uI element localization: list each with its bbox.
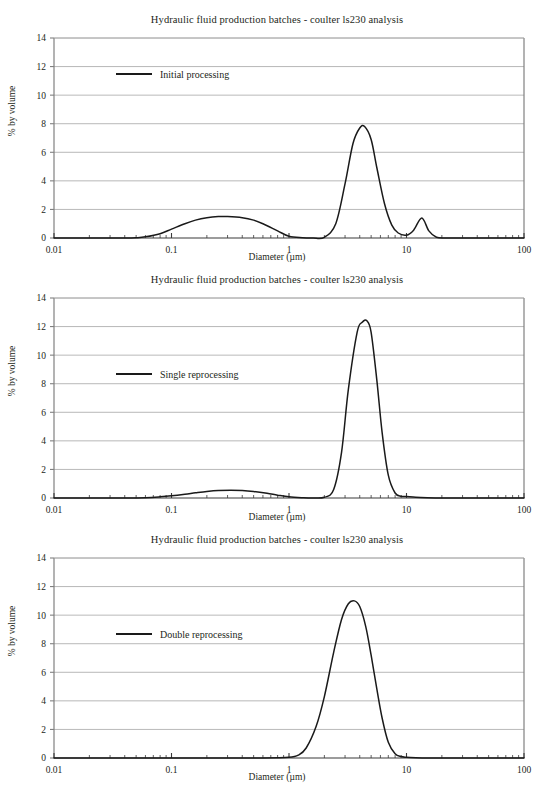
y-tick-label: 2	[41, 465, 46, 475]
chart-title: Hydraulic fluid production batches - cou…	[0, 274, 554, 285]
figure-root: Hydraulic fluid production batches - cou…	[0, 0, 554, 807]
y-tick-label: 2	[41, 205, 46, 215]
y-tick-label: 14	[37, 293, 47, 303]
legend-label: Double reprocessing	[160, 629, 242, 640]
x-tick-label: 0.1	[166, 765, 178, 775]
y-tick-label: 4	[41, 436, 46, 446]
y-tick-label: 0	[41, 753, 46, 763]
y-tick-label: 0	[41, 493, 46, 503]
y-tick-label: 14	[37, 33, 47, 43]
legend-label: Single reprocessing	[160, 369, 239, 380]
x-tick-label: 10	[402, 765, 412, 775]
x-tick-label: 10	[402, 245, 412, 255]
plot-area: 024681012140.010.1110100Single reprocess…	[0, 290, 554, 520]
y-tick-label: 12	[37, 582, 47, 592]
y-tick-label: 6	[41, 148, 46, 158]
y-tick-label: 10	[37, 611, 47, 621]
y-tick-label: 10	[37, 91, 47, 101]
chart-title: Hydraulic fluid production batches - cou…	[0, 534, 554, 545]
chart-panel-double-reprocessing: Hydraulic fluid production batches - cou…	[0, 534, 554, 796]
y-tick-label: 8	[41, 379, 46, 389]
x-tick-label: 1	[287, 505, 292, 515]
y-tick-label: 10	[37, 351, 47, 361]
x-tick-label: 1	[287, 765, 292, 775]
x-tick-label: 0.01	[46, 245, 63, 255]
y-tick-label: 4	[41, 176, 46, 186]
plot-area: 024681012140.010.1110100Initial processi…	[0, 30, 554, 260]
y-tick-label: 2	[41, 725, 46, 735]
chart-panel-initial-processing: Hydraulic fluid production batches - cou…	[0, 14, 554, 276]
y-tick-label: 14	[37, 553, 47, 563]
plot-area: 024681012140.010.1110100Double reprocess…	[0, 550, 554, 780]
legend-label: Initial processing	[160, 69, 229, 80]
y-tick-label: 12	[37, 322, 47, 332]
x-tick-label: 100	[517, 505, 532, 515]
y-tick-label: 12	[37, 62, 47, 72]
x-tick-label: 0.1	[166, 505, 178, 515]
x-tick-label: 0.01	[46, 505, 63, 515]
y-tick-label: 8	[41, 119, 46, 129]
series-line	[54, 320, 524, 498]
x-tick-label: 100	[517, 765, 532, 775]
y-tick-label: 8	[41, 639, 46, 649]
series-line	[54, 125, 524, 238]
x-tick-label: 10	[402, 505, 412, 515]
chart-title: Hydraulic fluid production batches - cou…	[0, 14, 554, 25]
x-tick-label: 0.01	[46, 765, 63, 775]
y-tick-label: 0	[41, 233, 46, 243]
y-tick-label: 4	[41, 696, 46, 706]
x-tick-label: 0.1	[166, 245, 178, 255]
x-tick-label: 100	[517, 245, 532, 255]
y-tick-label: 6	[41, 408, 46, 418]
chart-panel-single-reprocessing: Hydraulic fluid production batches - cou…	[0, 274, 554, 536]
x-tick-label: 1	[287, 245, 292, 255]
series-line	[54, 601, 524, 758]
y-tick-label: 6	[41, 668, 46, 678]
